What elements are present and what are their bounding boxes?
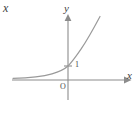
- origin-label: O: [60, 83, 66, 91]
- exponential-function-figure: x y x O 1: [0, 0, 139, 113]
- y-intercept-label: 1: [75, 61, 79, 69]
- exponential-curve: [13, 17, 100, 79]
- y-axis-arrowhead: [65, 14, 72, 21]
- y-axis-label: y: [64, 3, 69, 14]
- x-axis-label: x: [127, 70, 132, 81]
- plot-canvas: [0, 0, 139, 113]
- stray-x-label: x: [3, 2, 8, 14]
